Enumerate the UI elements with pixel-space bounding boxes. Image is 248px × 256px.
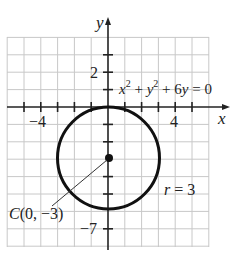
radius-label: r = 3 (164, 181, 195, 198)
tick-label-y-2: 2 (90, 64, 98, 81)
tick-label-x-4: 4 (170, 113, 178, 130)
y-axis-label: y (94, 13, 104, 32)
y-axis-arrow-icon (105, 17, 111, 25)
circle-graph: y x 2 −4 4 −7 x2 + y2 + 6y = 0 r = 3 C(0… (0, 0, 248, 256)
center-label: C(0, −3) (9, 205, 63, 223)
tick-label-x-neg4: −4 (29, 113, 46, 130)
equation-label: x2 + y2 + 6y = 0 (118, 78, 212, 97)
x-axis-label: x (217, 109, 226, 128)
tick-label-y-neg7: −7 (80, 220, 97, 237)
